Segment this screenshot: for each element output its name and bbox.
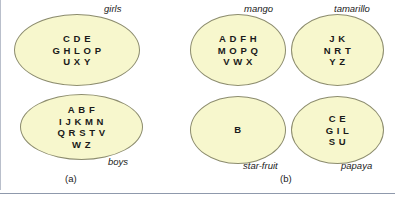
member-row: IJKMN [21,115,142,127]
member: Y [328,56,338,68]
set-label-girls: girls [104,3,121,14]
set-members-tamarillo: JK NRT YZ [292,33,383,68]
member: Z [83,139,93,151]
member: Z [338,56,348,68]
member: S [327,136,337,148]
set-ellipse-star-fruit: B [190,96,286,164]
member-row: NRT [292,44,383,56]
member: B [233,124,244,136]
member: H [62,44,73,56]
set-members-mango: ADFH MOPQ VWX [191,33,285,68]
member: L [73,44,83,56]
set-members-papaya: CE GIL SU [292,113,383,148]
member: C [61,33,72,45]
member: H [248,33,259,45]
member-row: UXY [15,56,139,68]
member-row: CE [292,113,383,125]
member-row: MOPQ [191,44,285,56]
member: C [327,113,338,125]
member: E [338,113,348,125]
member: F [239,33,249,45]
member: U [337,136,348,148]
member: S [78,127,88,139]
member: J [64,115,73,127]
member: V [222,56,232,68]
set-label-boys: boys [108,156,128,167]
member: G [51,44,62,56]
member: E [83,33,93,45]
member-row: YZ [292,56,383,68]
panel-caption-b: (b) [280,173,292,184]
member-row: GHLOP [15,44,139,56]
member: N [95,115,106,127]
member: L [341,124,351,136]
member: B [77,104,88,116]
member: M [216,44,228,56]
member: O [228,44,239,56]
set-ellipse-girls: CDE GHLOP UXY [14,14,140,86]
member: T [343,44,353,56]
member: R [67,127,78,139]
member: A [66,104,77,116]
member: D [72,33,83,45]
set-label-mango: mango [244,3,273,14]
set-members-star-fruit: B [191,124,285,136]
member: N [322,44,333,56]
member: D [228,33,239,45]
member: Q [56,127,67,139]
member: G [324,124,335,136]
member: Y [82,56,92,68]
panel-caption-a: (a) [65,173,77,184]
member: X [244,56,254,68]
set-label-star-fruit: star-fruit [243,160,278,171]
member: O [82,44,93,56]
member: K [73,115,84,127]
member: J [328,33,337,45]
set-label-papaya: papaya [341,160,372,171]
member-row: GIL [292,124,383,136]
member-row: WZ [21,139,142,151]
member: T [88,127,98,139]
member: A [217,33,228,45]
member: W [70,139,83,151]
member: P [239,44,249,56]
member-row: VWX [191,56,285,68]
member: X [72,56,82,68]
member: M [83,115,95,127]
set-members-girls: CDE GHLOP UXY [15,33,139,68]
set-ellipse-mango: ADFH MOPQ VWX [190,14,286,86]
member-row: SU [292,136,383,148]
member-row: ADFH [191,33,285,45]
member: F [87,104,97,116]
panel-a: CDE GHLOP UXY girls ABF IJKMN QRSTV WZ b… [0,0,186,198]
member-row: QRSTV [21,127,142,139]
member-row: JK [292,33,383,45]
member: U [62,56,73,68]
member: W [232,56,245,68]
member: K [337,33,348,45]
venn-figure: CDE GHLOP UXY girls ABF IJKMN QRSTV WZ b… [0,0,395,198]
set-members-boys: ABF IJKMN QRSTV WZ [21,104,142,150]
set-ellipse-tamarillo: JK NRT YZ [291,14,384,86]
panel-b: ADFH MOPQ VWX mango JK NRT YZ tamarillo … [186,0,395,198]
member-row: ABF [21,104,142,116]
set-ellipse-papaya: CE GIL SU [291,96,384,164]
member: R [333,44,344,56]
member: V [97,127,107,139]
member-row: B [191,124,285,136]
set-label-tamarillo: tamarillo [334,3,370,14]
member: Q [249,44,260,56]
member: P [93,44,103,56]
set-ellipse-boys: ABF IJKMN QRSTV WZ [20,94,143,160]
member-row: CDE [15,33,139,45]
